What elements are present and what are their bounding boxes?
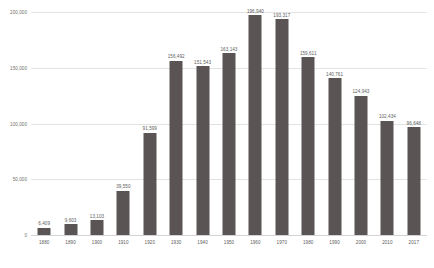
bar-group: 163,1431950 [216, 12, 242, 235]
bar[interactable] [196, 66, 209, 235]
bar-value-label: 96,648 [407, 121, 421, 126]
bar[interactable] [143, 133, 156, 235]
x-axis-tick-label: 1900 [92, 240, 102, 245]
gridline: 0 [31, 235, 427, 236]
bar[interactable] [38, 228, 51, 235]
bar-group: 91,5991920 [137, 12, 163, 235]
x-axis-tick-label: 2010 [382, 240, 392, 245]
x-axis-tick-label: 1990 [329, 240, 339, 245]
bar-group: 9,6031890 [57, 12, 83, 235]
bar-value-label: 196,940 [247, 9, 264, 14]
bar-group: 96,6482017 [401, 12, 427, 235]
bar[interactable] [249, 15, 262, 235]
bar-value-label: 39,550 [116, 184, 130, 189]
y-axis-tick-label: 200,000 [10, 10, 27, 15]
bar-group: 159,6111980 [295, 12, 321, 235]
bar[interactable] [90, 220, 103, 235]
bar-group: 140,7611990 [321, 12, 347, 235]
x-axis-tick-label: 1920 [145, 240, 155, 245]
bar-value-label: 13,103 [90, 214, 104, 219]
x-axis-tick-label: 1930 [171, 240, 181, 245]
x-axis-tick-label: 2000 [356, 240, 366, 245]
bar[interactable] [354, 96, 367, 235]
bar-series: 6,40918809,603189013,103190039,550191091… [31, 12, 427, 235]
bar-value-label: 151,543 [194, 60, 211, 65]
bar[interactable] [302, 57, 315, 235]
bar-value-label: 6,409 [38, 221, 50, 226]
bar-value-label: 193,317 [273, 13, 290, 18]
bar[interactable] [407, 127, 420, 235]
bar-group: 102,4342010 [374, 12, 400, 235]
bar-value-label: 156,492 [168, 54, 185, 59]
bar-value-label: 159,611 [300, 51, 317, 56]
bar-group: 13,1031900 [84, 12, 110, 235]
bar-value-label: 140,761 [326, 72, 343, 77]
bar-group: 124,9432000 [348, 12, 374, 235]
bar[interactable] [328, 78, 341, 235]
plot-area: 050,000100,000150,000200,000 6,40918809,… [31, 12, 427, 235]
bar-value-label: 124,943 [353, 89, 370, 94]
bar-group: 151,5431940 [189, 12, 215, 235]
bar-value-label: 163,143 [221, 47, 238, 52]
x-axis-tick-label: 1890 [65, 240, 75, 245]
bar[interactable] [222, 53, 235, 235]
bar[interactable] [170, 61, 183, 235]
bar-value-label: 102,434 [379, 114, 396, 119]
x-axis-tick-label: 2017 [409, 240, 419, 245]
bar-group: 193,3171970 [269, 12, 295, 235]
bar-group: 196,9401960 [242, 12, 268, 235]
bar-group: 39,5501910 [110, 12, 136, 235]
bar[interactable] [117, 191, 130, 235]
x-axis-tick-label: 1950 [224, 240, 234, 245]
bar-value-label: 91,599 [143, 126, 157, 131]
x-axis-tick-label: 1880 [39, 240, 49, 245]
bar-chart: 050,000100,000150,000200,000 6,40918809,… [0, 0, 434, 268]
x-axis-tick-label: 1960 [250, 240, 260, 245]
x-axis-tick-label: 1910 [118, 240, 128, 245]
y-axis-tick-label: 50,000 [13, 177, 27, 182]
bar[interactable] [64, 224, 77, 235]
bar-value-label: 9,603 [65, 218, 77, 223]
bar-group: 6,4091880 [31, 12, 57, 235]
bar-group: 156,4921930 [163, 12, 189, 235]
x-axis-tick-label: 1940 [197, 240, 207, 245]
y-axis-tick-label: 150,000 [10, 65, 27, 70]
x-axis-tick-label: 1980 [303, 240, 313, 245]
x-axis-tick-label: 1970 [277, 240, 287, 245]
bar[interactable] [275, 19, 288, 235]
y-axis-tick-label: 0 [24, 233, 27, 238]
bar[interactable] [381, 121, 394, 235]
y-axis-tick-label: 100,000 [10, 121, 27, 126]
